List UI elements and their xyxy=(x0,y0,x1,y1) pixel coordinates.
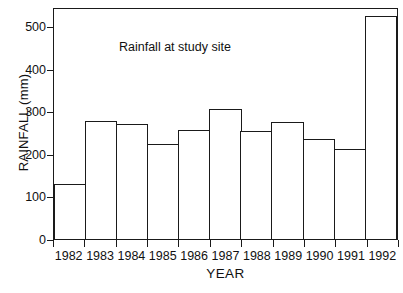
bar-1984 xyxy=(116,124,148,239)
bar-1983 xyxy=(85,121,117,239)
x-tick-10 xyxy=(367,240,368,247)
x-axis-title: YEAR xyxy=(53,266,398,281)
y-tick-label-400: 400 xyxy=(6,63,46,77)
x-tick-6 xyxy=(241,240,242,247)
x-tick-8 xyxy=(304,240,305,247)
bar-1989 xyxy=(271,122,303,239)
x-tick-1 xyxy=(84,240,85,247)
x-tick-0 xyxy=(53,240,54,247)
bar-1985 xyxy=(147,144,179,239)
bar-1986 xyxy=(178,130,210,239)
bar-1991 xyxy=(334,149,366,239)
bar-1992 xyxy=(365,16,397,239)
plot-area: Rainfall at study site xyxy=(53,8,398,240)
x-tick-label-1992: 1992 xyxy=(360,249,403,263)
bar-1988 xyxy=(240,131,272,239)
y-tick-label-500: 500 xyxy=(6,20,46,34)
bar-1987 xyxy=(209,109,241,239)
x-tick-4 xyxy=(178,240,179,247)
chart-annotation-label: Rainfall at study site xyxy=(119,40,231,54)
bar-1982 xyxy=(54,184,86,239)
bar-1990 xyxy=(303,139,335,239)
x-tick-9 xyxy=(335,240,336,247)
x-tick-7 xyxy=(273,240,274,247)
x-tick-2 xyxy=(116,240,117,247)
y-tick-label-100: 100 xyxy=(6,190,46,204)
y-tick-label-300: 300 xyxy=(6,105,46,119)
x-tick-11 xyxy=(398,240,399,247)
y-tick-label-200: 200 xyxy=(6,148,46,162)
rainfall-bar-chart-figure: RAINFALL (mm) 0100200300400500 Rainfall … xyxy=(0,0,403,293)
y-tick-label-0: 0 xyxy=(6,233,46,247)
x-tick-5 xyxy=(210,240,211,247)
x-tick-3 xyxy=(147,240,148,247)
